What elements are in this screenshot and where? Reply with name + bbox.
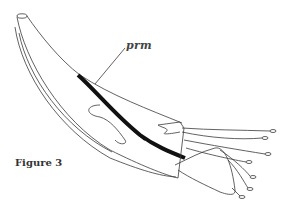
prm-leader-line: [95, 48, 125, 84]
fiber-2: [182, 132, 262, 139]
line-drawing: [0, 0, 290, 214]
fiber-3: [184, 140, 265, 154]
prm-label: prm: [126, 39, 152, 52]
fan-sac: [175, 148, 235, 195]
lower-outline-2: [15, 27, 176, 177]
upper-outline: [27, 16, 182, 123]
figure-caption: Figure 3: [15, 157, 62, 168]
fiber-end-2: [262, 137, 268, 140]
fiber-end-5: [250, 176, 256, 179]
fiber-end-7: [239, 196, 245, 199]
fiber-1: [182, 128, 270, 131]
tip-ellipse: [17, 14, 27, 18]
fiber-4: [186, 148, 246, 162]
fiber-7: [232, 188, 240, 196]
prm-muscle-band: [78, 75, 185, 158]
lower-outline: [17, 17, 178, 178]
inner-loop: [89, 105, 126, 144]
fiber-end-6: [247, 188, 253, 191]
anatomical-illustration: prm Figure 3: [0, 0, 290, 214]
fiber-end-3: [265, 153, 271, 156]
fiber-end-1: [270, 130, 276, 133]
fiber-5: [220, 150, 250, 176]
fiber-end-4: [246, 161, 252, 164]
